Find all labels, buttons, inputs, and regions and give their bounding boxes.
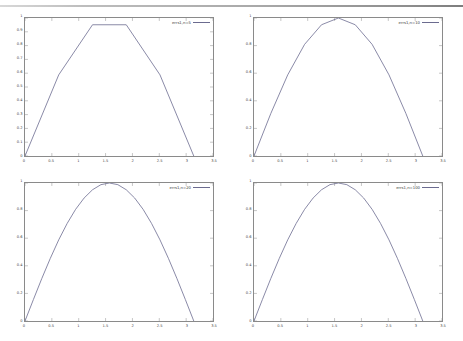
- x-tick-label: 3: [186, 323, 188, 328]
- y-tick-label: 1: [249, 15, 253, 19]
- plot-canvas-1: [25, 18, 213, 156]
- x-tick-label: 3.5: [440, 158, 446, 163]
- y-tick-label: 0.3: [17, 113, 24, 117]
- plot-canvas-4: [254, 183, 442, 321]
- x-tick-label: 1: [77, 323, 79, 328]
- x-tick-label: 1: [306, 158, 308, 163]
- data-line-4: [254, 183, 423, 321]
- plot-svg-1: [25, 18, 213, 156]
- x-tick-label: 1.5: [103, 158, 109, 163]
- y-tick-label: 0.2: [246, 127, 253, 131]
- y-tick-label: 0.8: [17, 43, 24, 47]
- x-tick-label: 0: [252, 323, 254, 328]
- legend-line-swatch-2: [422, 22, 439, 23]
- y-tick-label: 0.7: [17, 57, 24, 61]
- plot-canvas-2: [254, 18, 442, 156]
- legend-line-swatch-1: [193, 22, 210, 23]
- y-tick-label: 0.6: [17, 71, 24, 75]
- plot-panel-1: errs1,n=5 0 0.1 0.2 0.3 0.4 0.5 0.6 0.7 …: [0, 7, 231, 174]
- legend-line-swatch-4: [422, 187, 439, 188]
- legend-4: errs1,n=100: [396, 186, 439, 190]
- y-tick-label: 0.4: [17, 264, 24, 268]
- y-tick-label: 0.6: [246, 71, 253, 75]
- x-tick-label: 3: [415, 323, 417, 328]
- x-tick-label: 2: [131, 158, 133, 163]
- plot-grid: errs1,n=5 0 0.1 0.2 0.3 0.4 0.5 0.6 0.7 …: [0, 7, 463, 341]
- plot-frame-1: errs1,n=5: [24, 17, 214, 157]
- plot-panel-2: errs1,n=10 0 0.2 0.4 0.6 0.8 1 0 0.5 1 1…: [231, 7, 463, 174]
- y-tick-label: 0.1: [17, 141, 24, 145]
- x-tick-label: 3: [186, 158, 188, 163]
- legend-3: errs1,n=20: [170, 186, 210, 190]
- y-tick-label: 1: [20, 180, 24, 184]
- y-tick-label: 0.2: [17, 127, 24, 131]
- legend-label-4: errs1,n=100: [396, 186, 420, 190]
- x-tick-label: 1.5: [103, 323, 109, 328]
- data-line-3: [25, 183, 194, 321]
- y-tick-label: 0.8: [246, 208, 253, 212]
- plot-svg-4: [254, 183, 442, 321]
- x-tick-label: 0: [23, 158, 25, 163]
- plot-panel-4: errs1,n=100 0 0.2 0.4 0.6 0.8 1 0 0.5 1 …: [231, 174, 463, 341]
- x-tick-label: 2.5: [157, 158, 163, 163]
- plot-frame-2: errs1,n=10: [253, 17, 443, 157]
- x-tick-label: 3.5: [211, 158, 217, 163]
- x-tick-label: 3.5: [211, 323, 217, 328]
- x-tick-label: 2.5: [157, 323, 163, 328]
- window-top-bar: [0, 0, 463, 7]
- plot-panel-3: errs1,n=20 0 0.2 0.4 0.6 0.8 1 0 0.5 1 1…: [0, 174, 231, 341]
- x-tick-label: 2: [131, 323, 133, 328]
- legend-1: errs1,n=5: [172, 21, 210, 25]
- x-tick-label: 2.5: [386, 158, 392, 163]
- legend-label-1: errs1,n=5: [172, 21, 191, 25]
- data-line-1: [25, 25, 194, 156]
- x-tick-label: 1: [306, 323, 308, 328]
- y-tick-label: 0.4: [17, 99, 24, 103]
- legend-label-2: errs1,n=10: [399, 21, 420, 25]
- x-tick-label: 1.5: [332, 323, 338, 328]
- x-tick-label: 0.5: [277, 323, 283, 328]
- y-tick-label: 0.6: [246, 236, 253, 240]
- x-tick-label: 0.5: [48, 158, 54, 163]
- x-tick-label: 3.5: [440, 323, 446, 328]
- plot-frame-3: errs1,n=20: [24, 182, 214, 322]
- x-tick-label: 0.5: [48, 323, 54, 328]
- data-line-2: [254, 18, 423, 156]
- legend-label-3: errs1,n=20: [170, 186, 191, 190]
- plot-svg-2: [254, 18, 442, 156]
- x-tick-label: 1: [77, 158, 79, 163]
- x-tick-label: 2: [360, 323, 362, 328]
- y-tick-label: 0.6: [17, 236, 24, 240]
- legend-line-swatch-3: [193, 187, 210, 188]
- legend-2: errs1,n=10: [399, 21, 439, 25]
- y-tick-label: 1: [249, 180, 253, 184]
- y-tick-label: 0.4: [246, 264, 253, 268]
- y-tick-label: 0.8: [17, 208, 24, 212]
- plot-canvas-3: [25, 183, 213, 321]
- y-tick-label: 0.9: [17, 29, 24, 33]
- y-tick-label: 1: [20, 15, 24, 19]
- y-tick-label: 0.2: [17, 292, 24, 296]
- x-tick-label: 0: [252, 158, 254, 163]
- y-tick-label: 0.4: [246, 99, 253, 103]
- x-tick-label: 2: [360, 158, 362, 163]
- y-tick-label: 0.2: [246, 292, 253, 296]
- y-tick-label: 0.5: [17, 85, 24, 89]
- x-tick-label: 1.5: [332, 158, 338, 163]
- plot-frame-4: errs1,n=100: [253, 182, 443, 322]
- x-tick-label: 0.5: [277, 158, 283, 163]
- y-tick-label: 0.8: [246, 43, 253, 47]
- x-tick-label: 3: [415, 158, 417, 163]
- plot-svg-3: [25, 183, 213, 321]
- x-tick-label: 2.5: [386, 323, 392, 328]
- x-tick-label: 0: [23, 323, 25, 328]
